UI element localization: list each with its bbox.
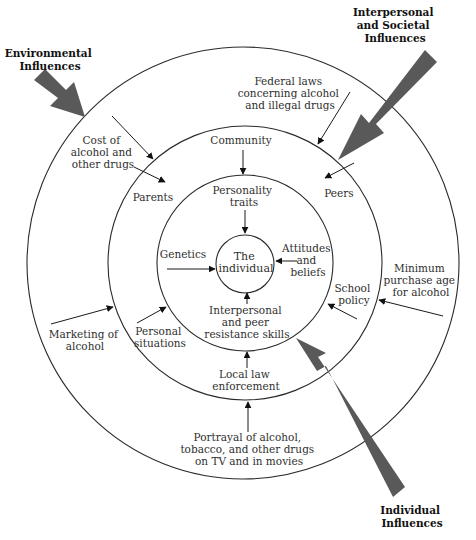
factor-personal-situations: Personal situations [134, 325, 186, 349]
environmental-big-arrow-icon [34, 69, 85, 117]
arrow-peers-icon [325, 163, 354, 178]
factor-peers: Peers [324, 187, 353, 199]
arrow-minimum-age-icon [379, 300, 443, 316]
arrow-school-policy-icon [328, 304, 357, 319]
factor-cost-of-alcohol: Cost of alcohol and other drugs [71, 134, 136, 170]
factor-attitudes-beliefs: Attitudes and beliefs [281, 242, 334, 278]
factor-minimum-purchase-age: Minimum purchase age for alcohol [384, 262, 459, 298]
factor-genetics: Genetics [160, 248, 206, 260]
arrow-marketing-icon [51, 307, 113, 324]
factor-parents: Parents [133, 191, 173, 203]
factor-resistance-skills: Interpersonal and peer resistance skills [204, 304, 289, 340]
factor-community: Community [210, 134, 271, 146]
influence-diagram: Environmental Influences Interpersonal a… [0, 0, 476, 540]
factor-personality-traits: Personality traits [213, 184, 276, 208]
interpersonal-big-arrow-icon [338, 50, 437, 160]
category-individual-label: Individual Influences [380, 504, 443, 529]
factor-school-policy: School policy [334, 282, 373, 306]
factor-marketing-of-alcohol: Marketing of alcohol [49, 328, 122, 352]
factor-local-law-enforcement: Local law enforcement [212, 368, 280, 392]
individual-big-arrow-icon [296, 338, 405, 497]
factor-media-portrayal: Portrayal of alcohol, tobacco, and other… [180, 431, 317, 467]
arrow-parents-icon [134, 167, 165, 182]
factor-federal-laws: Federal laws concerning alcohol and ille… [238, 75, 343, 111]
category-interpersonal-societal-label: Interpersonal and Societal Influences [353, 6, 437, 44]
arrow-personal-situations-icon [137, 307, 166, 323]
category-environmental-label: Environmental Influences [5, 47, 96, 72]
center-individual-label: The individual [218, 250, 274, 275]
